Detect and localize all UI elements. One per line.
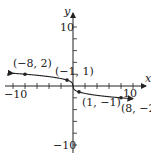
point-label: (−8, 2) bbox=[13, 57, 52, 70]
data-point bbox=[119, 96, 123, 100]
x-axis-label: x bbox=[145, 72, 151, 85]
x-tick-neg10: −10 bbox=[4, 88, 27, 101]
y-tick-10: 10 bbox=[60, 21, 74, 34]
y-tick-neg10: −10 bbox=[53, 139, 76, 152]
y-axis-label: y bbox=[63, 5, 71, 18]
data-point bbox=[65, 78, 69, 82]
data-point bbox=[23, 72, 27, 76]
point-label: (8, −2) bbox=[121, 102, 151, 115]
point-label: (1, −1) bbox=[82, 96, 121, 109]
axes bbox=[5, 13, 146, 153]
data-point bbox=[77, 90, 81, 94]
graph: x y −10 10 10 −10 (−8, 2)(−1, 1)(1, −1)(… bbox=[0, 0, 151, 157]
point-label: (−1, 1) bbox=[55, 65, 94, 78]
